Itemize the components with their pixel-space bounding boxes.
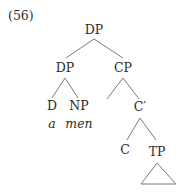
word-a: a (48, 116, 55, 131)
node-c-bar: C′ (134, 99, 147, 114)
node-dp-left: DP (56, 60, 74, 75)
node-d: D (47, 98, 57, 113)
word-men: men (65, 116, 92, 131)
edge-cbar-c (127, 118, 140, 140)
edge-cbar-tp (140, 118, 156, 140)
edge-dp-d (52, 78, 65, 98)
node-tp: TP (149, 144, 166, 159)
edge-cp-cbar (123, 78, 139, 99)
edge-dp-np (65, 78, 78, 98)
edge-dp-cp (94, 39, 123, 58)
node-dp-root: DP (85, 22, 103, 37)
tp-triangle (141, 163, 176, 184)
node-np: NP (69, 98, 88, 113)
node-cp: CP (114, 60, 132, 75)
node-c: C (120, 142, 130, 157)
example-number: (56) (8, 8, 34, 23)
edge-cp-spec (107, 78, 123, 99)
syntax-tree: (56) DP DP CP D NP C′ a men C TP (0, 0, 184, 192)
edge-dp-dp (66, 39, 94, 58)
